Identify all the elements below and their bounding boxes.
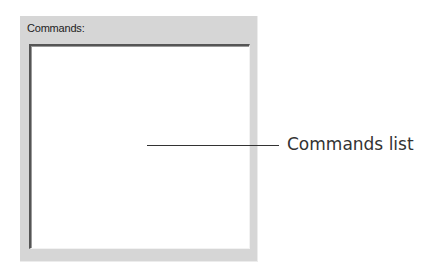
callout-label: Commands list [287, 134, 414, 154]
commands-listbox[interactable] [29, 44, 250, 249]
callout-line [147, 145, 279, 146]
commands-panel: Commands: [20, 16, 258, 262]
commands-label: Commands: [27, 22, 85, 34]
